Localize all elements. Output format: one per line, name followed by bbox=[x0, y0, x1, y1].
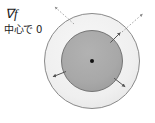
figure-canvas bbox=[0, 0, 155, 123]
center-point-dot bbox=[90, 59, 94, 63]
gradient-field-figure: ∇f 中心で 0 bbox=[0, 0, 155, 123]
leader-line-left bbox=[55, 7, 74, 24]
leader-line-right bbox=[122, 14, 143, 32]
